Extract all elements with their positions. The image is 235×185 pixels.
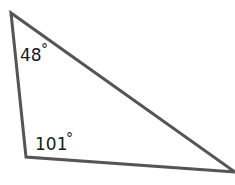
svg-text:48: 48 [20, 45, 42, 65]
triangle-diagram: 48 ° 101 ° [0, 0, 235, 185]
angle-label-top: 48 ° [20, 41, 48, 65]
svg-text:°: ° [41, 41, 48, 57]
svg-text:101: 101 [35, 134, 67, 154]
svg-text:°: ° [66, 130, 73, 146]
angle-label-bottom-left: 101 ° [35, 130, 73, 154]
